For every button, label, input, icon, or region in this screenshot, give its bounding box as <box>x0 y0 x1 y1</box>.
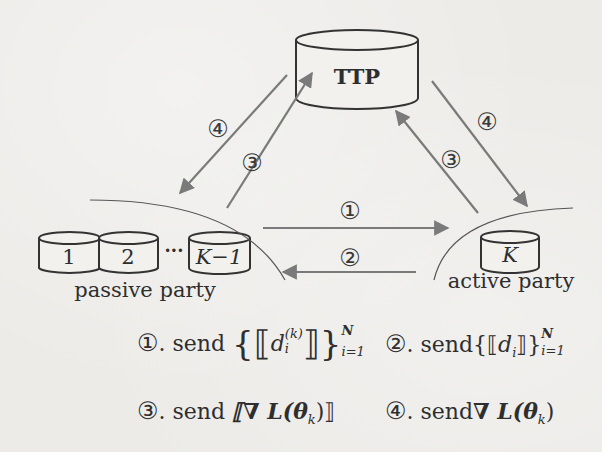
active-party-label: active party <box>448 269 575 293</box>
legend-step1-num: ① <box>137 329 159 357</box>
ttp-label: TTP <box>334 64 380 89</box>
passive-ellipsis: ··· <box>165 240 184 261</box>
arrow-step2-label: ② <box>339 244 361 272</box>
active-cylinder-k-label: K <box>502 243 518 267</box>
arrow-step3-left-label: ③ <box>241 149 263 177</box>
diagram-canvas: TTP 1 2 ··· K−1 K passive party active p… <box>0 0 602 452</box>
passive-party-label: passive party <box>74 278 216 302</box>
arrow-step4-right <box>432 81 527 206</box>
passive-cylinder-1-label: 1 <box>62 245 75 269</box>
passive-cylinder-k-1-label: K−1 <box>196 245 243 269</box>
legend-step2-verb: send <box>421 332 474 357</box>
legend-step4-verb: send <box>421 399 474 424</box>
arrow-step4-left <box>180 75 287 193</box>
legend-step1: ①. send {⟦d(k)i⟧}Ni=1 <box>137 325 365 365</box>
arrow-step1-label: ① <box>339 197 361 225</box>
arrow-step4-left-label: ④ <box>207 115 229 143</box>
arrow-step4-right-label: ④ <box>476 108 498 136</box>
legend-step3: ③. send ⟦∇ L(θk)⟧ <box>137 397 335 427</box>
diagram-graphics <box>0 0 602 452</box>
arrow-step3-right-label: ③ <box>440 146 462 174</box>
legend-step2: ②. send{⟦di⟧}Ni=1 <box>385 330 565 361</box>
legend-step4: ④. send∇ L(θk) <box>385 397 554 427</box>
legend-step1-verb: send <box>173 331 226 356</box>
passive-cylinder-2-label: 2 <box>121 245 134 269</box>
legend-step3-verb: send <box>173 399 226 424</box>
legend-step3-num: ③ <box>137 397 159 425</box>
legend-step2-num: ② <box>385 330 407 358</box>
legend-step4-num: ④ <box>385 397 407 425</box>
